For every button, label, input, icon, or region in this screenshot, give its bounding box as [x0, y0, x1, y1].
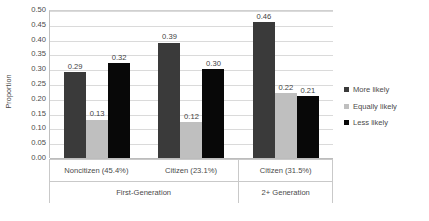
y-axis-title-label: Proportion: [4, 74, 13, 108]
legend-item[interactable]: More likely: [344, 86, 397, 94]
y-axis-tick-label: 0.05: [31, 139, 46, 147]
legend-label: Equally likely: [353, 103, 397, 111]
bar-value-label: 0.13: [90, 110, 105, 118]
bar-less-likely[interactable]: [202, 69, 224, 158]
bar-group: 0.290.130.32: [50, 11, 144, 158]
y-axis-tick-label: 0.25: [31, 80, 46, 88]
bar-chart: Proportion 0.500.450.400.350.300.250.200…: [0, 0, 429, 221]
y-axis-title: Proportion: [1, 56, 15, 126]
legend-swatch-icon: [344, 120, 349, 125]
bar-value-label: 0.30: [206, 60, 221, 68]
y-axis-tick-label: 0.35: [31, 51, 46, 59]
legend-swatch-icon: [344, 87, 349, 92]
bar-column: 0.30: [202, 11, 224, 158]
y-axis-tick-label: 0.30: [31, 65, 46, 73]
bar-group: 0.460.220.21: [239, 11, 333, 158]
bar-value-label: 0.39: [162, 33, 177, 41]
bar-value-label: 0.12: [184, 113, 199, 121]
legend-swatch-icon: [344, 104, 349, 109]
category-row: Noncitizen (45.4%)Citizen (23.1%)Citizen…: [49, 159, 333, 181]
x-axis-categories: Noncitizen (45.4%)Citizen (23.1%)Citizen…: [49, 159, 333, 203]
axis-separator: [49, 159, 333, 160]
chart-legend: More likelyEqually likelyLess likely: [344, 86, 397, 127]
bar-equally-likely[interactable]: [275, 93, 297, 158]
legend-label: Less likely: [353, 119, 388, 127]
bar-value-label: 0.29: [68, 63, 83, 71]
supercategory-row: First-Generation2+ Generation: [49, 181, 333, 203]
bar-value-label: 0.32: [112, 54, 127, 62]
bar-column: 0.22: [275, 11, 297, 158]
axis-separator: [49, 181, 333, 182]
bar-column: 0.12: [180, 11, 202, 158]
supercategory-label: 2+ Generation: [238, 181, 333, 203]
bar-column: 0.46: [253, 11, 275, 158]
bar-column: 0.32: [108, 11, 130, 158]
bar-value-label: 0.21: [300, 87, 315, 95]
bar-column: 0.13: [86, 11, 108, 158]
bar-value-label: 0.46: [256, 13, 271, 21]
bar-column: 0.21: [297, 11, 319, 158]
bar-column: 0.29: [64, 11, 86, 158]
y-axis-tick-label: 0.50: [31, 6, 46, 14]
plot-area: 0.290.130.320.390.120.300.460.220.21: [49, 10, 333, 158]
bar-more-likely[interactable]: [158, 43, 180, 158]
bar-groups: 0.290.130.320.390.120.300.460.220.21: [50, 11, 333, 158]
y-axis-tick-label: 0.40: [31, 36, 46, 44]
y-axis-tick-label: 0.00: [31, 154, 46, 162]
y-axis-tick-label: 0.10: [31, 125, 46, 133]
y-axis-tick-label: 0.15: [31, 110, 46, 118]
y-axis-tick-labels: 0.500.450.400.350.300.250.200.150.100.05…: [22, 10, 46, 158]
legend-item[interactable]: Equally likely: [344, 103, 397, 111]
bar-less-likely[interactable]: [108, 63, 130, 158]
legend-label: More likely: [353, 86, 389, 94]
legend-item[interactable]: Less likely: [344, 119, 397, 127]
bar-group: 0.390.120.30: [144, 11, 238, 158]
bar-equally-likely[interactable]: [180, 122, 202, 158]
category-label: Citizen (31.5%): [238, 159, 333, 181]
category-label: Citizen (23.1%): [144, 159, 239, 181]
category-label: Noncitizen (45.4%): [49, 159, 144, 181]
bar-equally-likely[interactable]: [86, 120, 108, 158]
bar-column: 0.39: [158, 11, 180, 158]
y-axis-tick-label: 0.20: [31, 95, 46, 103]
bar-less-likely[interactable]: [297, 96, 319, 158]
bar-value-label: 0.22: [278, 84, 293, 92]
bar-more-likely[interactable]: [253, 22, 275, 158]
y-axis-tick-label: 0.45: [31, 21, 46, 29]
supercategory-label: First-Generation: [49, 181, 238, 203]
bar-more-likely[interactable]: [64, 72, 86, 158]
